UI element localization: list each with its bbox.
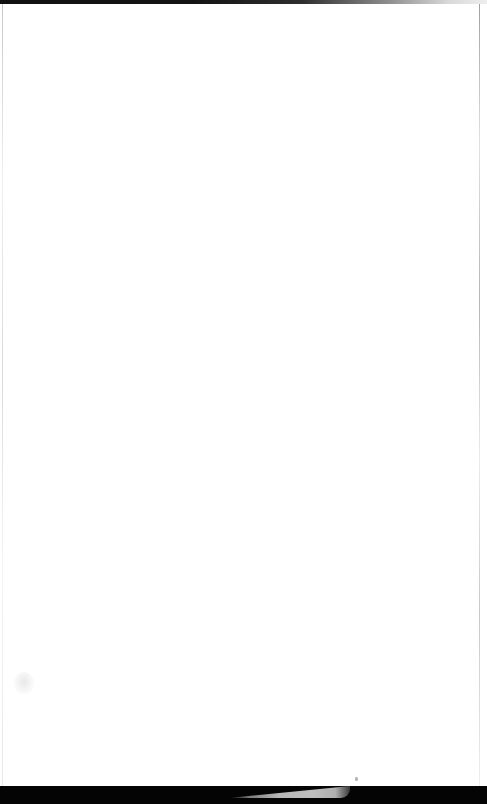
left-margin-rule: [2, 4, 3, 804]
page-blank-area: [0, 0, 487, 804]
bottom-right-speck: [355, 777, 358, 781]
right-margin-rule: [479, 4, 480, 786]
left-edge-smudge: [14, 672, 34, 694]
bottom-dark-band: [0, 786, 487, 804]
top-edge-shadow-strip: [0, 0, 487, 4]
scanned-page: [0, 0, 487, 804]
